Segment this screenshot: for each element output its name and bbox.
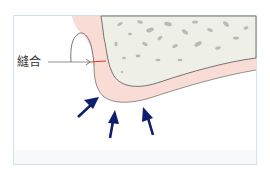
diagram-canvas	[0, 0, 270, 182]
suture-label: 縫合	[17, 55, 41, 69]
frame-bottom-shade	[14, 150, 256, 164]
